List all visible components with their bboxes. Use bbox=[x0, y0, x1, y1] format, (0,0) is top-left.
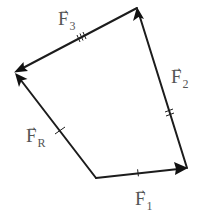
vector-f2-line bbox=[139, 14, 187, 168]
vector-arrow-icon: → bbox=[136, 185, 146, 195]
force-polygon-diagram bbox=[0, 0, 199, 215]
label-f1: →F1 bbox=[135, 189, 153, 208]
vector-f1 bbox=[96, 162, 188, 178]
vector-arrow-icon: → bbox=[59, 5, 69, 15]
tick-mark-single bbox=[138, 169, 139, 176]
label-f2: →F2 bbox=[171, 67, 189, 86]
vector-arrow-icon: → bbox=[27, 122, 37, 132]
vector-f2 bbox=[133, 7, 187, 168]
label-fr: →FR bbox=[26, 126, 46, 145]
vector-arrow-icon: → bbox=[172, 63, 182, 73]
label-f3: →F3 bbox=[58, 9, 76, 28]
vector-f1-line bbox=[96, 169, 183, 179]
